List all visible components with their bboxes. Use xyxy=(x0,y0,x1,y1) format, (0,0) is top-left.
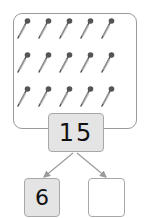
part-number-left: 6 xyxy=(35,185,49,210)
whole-number: 15 xyxy=(59,119,94,147)
part-box-left: 6 xyxy=(24,178,60,217)
part-box-right-answer[interactable] xyxy=(88,178,125,217)
whole-number-box: 15 xyxy=(48,113,104,152)
arrow-right xyxy=(77,153,106,177)
arrow-left xyxy=(44,153,73,177)
